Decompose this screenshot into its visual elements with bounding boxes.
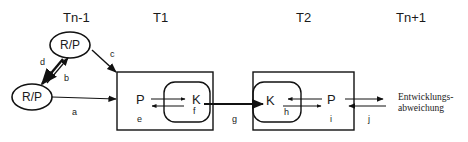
outcome-label-line1: Entwicklungs- bbox=[398, 92, 453, 102]
edge-label-d: d bbox=[40, 57, 45, 67]
edge-label-a: a bbox=[72, 107, 77, 117]
rp-node-lower: R/P bbox=[12, 84, 52, 110]
time-label-tn-1: Tn-1 bbox=[63, 10, 90, 25]
box1-p-label: P bbox=[136, 92, 145, 107]
box2-p-label: P bbox=[327, 92, 336, 107]
edge-label-b: b bbox=[64, 73, 69, 83]
box-t2: K P h i bbox=[253, 72, 354, 130]
edge-label-i: i bbox=[330, 114, 332, 124]
time-label-t2: T2 bbox=[296, 10, 311, 25]
edge-label-f: f bbox=[193, 106, 196, 116]
box-t1: P K e f bbox=[117, 72, 213, 130]
edge-label-g: g bbox=[232, 114, 237, 124]
time-label-tn+1: Tn+1 bbox=[396, 10, 426, 25]
outcome-label-line2: abweichung bbox=[398, 103, 444, 113]
rp-node-upper: R/P bbox=[50, 32, 90, 58]
arrow-a bbox=[52, 97, 116, 99]
edge-label-e: e bbox=[137, 114, 142, 124]
edge-label-j: j bbox=[367, 114, 370, 124]
time-label-t1: T1 bbox=[153, 10, 168, 25]
box1-k-label: K bbox=[192, 92, 201, 107]
edge-label-c: c bbox=[110, 49, 115, 59]
rp-lower-label: R/P bbox=[22, 90, 42, 104]
rp-upper-label: R/P bbox=[60, 38, 80, 52]
arrow-d bbox=[42, 59, 63, 84]
box2-k-label: K bbox=[266, 93, 275, 108]
development-diagram: Tn-1 T1 T2 Tn+1 R/P R/P d b c a P K e f … bbox=[0, 0, 468, 142]
edge-label-h: h bbox=[284, 107, 289, 117]
